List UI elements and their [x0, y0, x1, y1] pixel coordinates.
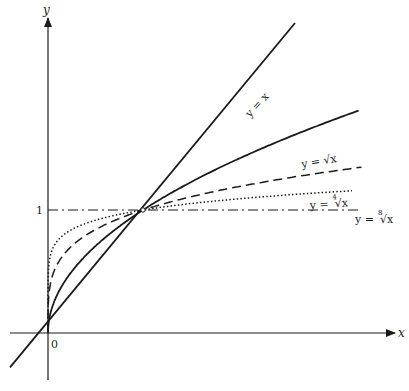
- x-axis-label: x: [398, 326, 405, 340]
- y-axis-label: y: [42, 3, 50, 17]
- origin-label: 0: [51, 338, 58, 351]
- svg-text:√x: √x: [334, 196, 349, 210]
- curve-y-equals-x: [10, 23, 295, 367]
- svg-text:y =: y =: [354, 213, 374, 226]
- svg-text:y =: y =: [308, 198, 329, 212]
- y-tick-one: 1: [36, 204, 43, 217]
- chart-canvas: y x 0 1 y = x y = √x y = 4 √x y = 8 √x: [0, 0, 409, 391]
- intersection-point: [141, 208, 145, 212]
- label-y-equals-x: y = x: [242, 90, 272, 121]
- svg-text:√x: √x: [380, 213, 394, 226]
- label-eighth-root-x: y = 8 √x: [354, 209, 394, 226]
- label-sqrt-x: y = √x: [299, 152, 338, 171]
- label-fourth-root-x: y = 4 √x: [308, 192, 349, 212]
- curve-eighth-root-x: [48, 191, 352, 333]
- curve-sqrt-x: [48, 111, 359, 333]
- curve-fourth-root-x: [48, 167, 362, 333]
